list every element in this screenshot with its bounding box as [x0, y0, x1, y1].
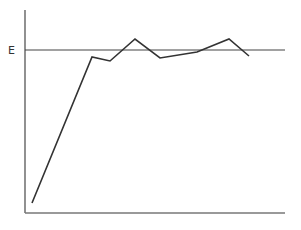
reference-label: E [8, 44, 15, 57]
data-series-line [32, 39, 249, 203]
line-chart: E [0, 0, 301, 230]
